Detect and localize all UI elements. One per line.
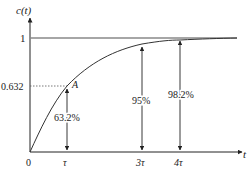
y-tick-one: 1 (20, 32, 26, 44)
percent-982: 98.2% (168, 89, 194, 100)
x-tick-3tau: 3τ (135, 157, 145, 168)
percent-95: 95% (132, 95, 150, 106)
diagram-canvas: c(t) t 1 0.632 0 A τ 3τ 4τ 63.2% 95% 98.… (0, 0, 249, 178)
x-axis-label: t (243, 148, 247, 160)
x-tick-4tau: 4τ (174, 157, 183, 168)
x-tick-tau: τ (63, 157, 67, 168)
point-a-label: A (71, 79, 79, 90)
step-response-diagram: c(t) t 1 0.632 0 A τ 3τ 4τ 63.2% 95% 98.… (0, 0, 249, 178)
y-axis-label: c(t) (16, 4, 32, 17)
y-tick-0632: 0.632 (1, 81, 24, 92)
percent-632: 63.2% (54, 112, 80, 123)
origin-label: 0 (26, 157, 31, 168)
